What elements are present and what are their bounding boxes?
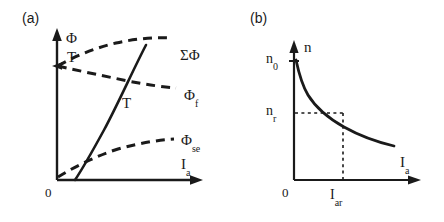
tick-label-n-r-sub: r (273, 113, 276, 124)
x-axis-label-ia-b: Ia (400, 155, 409, 173)
curve-secondary-emission-flux (58, 139, 174, 177)
panel-b-tag: (b) (250, 11, 267, 25)
curve-label-secondary-emission-flux-sub: se (192, 143, 200, 154)
curve-density (296, 60, 394, 146)
curve-label-secondary-emission-flux: Φse (181, 133, 200, 151)
tick-label-n-r-main: n (266, 103, 273, 118)
curve-label-thermionic-flux-sub: f (195, 98, 198, 109)
x-marker-label-iar: Iar (330, 188, 342, 205)
tick-label-n-zero-sub: 0 (273, 61, 278, 72)
x-axis-label-ia-a: Ia (181, 157, 190, 175)
curve-label-thermionic-flux-main: Φ (184, 87, 195, 103)
origin-label-a: 0 (45, 186, 52, 199)
x-axis-b (294, 175, 421, 184)
inline-label-t: T (122, 96, 131, 111)
panel-a-graphic (0, 0, 222, 222)
panel-a-tag: (a) (22, 11, 39, 25)
curve-label-thermionic-flux: Φf (184, 88, 198, 106)
panel-a: (a) Φ T T ΣΦ Φf Φse Ia 0 (0, 0, 222, 222)
y-axis-label-phi: Φ (66, 31, 77, 46)
x-axis-a (57, 175, 203, 185)
tick-label-n-r: nr (266, 104, 276, 121)
curve-label-secondary-emission-flux-main: Φ (181, 132, 192, 148)
curve-label-sum-flux-main: ΣΦ (180, 47, 200, 63)
curve-temperature (75, 45, 146, 180)
x-marker-label-iar-main: I (330, 187, 335, 202)
x-axis-label-ia-b-sub: a (405, 165, 409, 176)
origin-label-b: 0 (282, 186, 289, 199)
figure-container: (a) Φ T T ΣΦ Φf Φse Ia 0 (0, 0, 444, 222)
tick-label-n-zero-main: n (266, 51, 273, 66)
y-axis-label-t: T (67, 50, 76, 65)
curve-label-sum-flux: ΣΦ (180, 48, 200, 63)
y-axis-label-n: n (304, 40, 312, 55)
curve-thermionic-flux (58, 66, 176, 88)
panel-b: (b) n n0 nr Ia 0 Iar (222, 0, 444, 222)
y-axis-a (52, 28, 62, 180)
x-marker-label-iar-sub: ar (335, 197, 343, 208)
tick-label-n-zero: n0 (266, 52, 278, 69)
x-axis-label-ia-a-sub: a (186, 167, 190, 178)
